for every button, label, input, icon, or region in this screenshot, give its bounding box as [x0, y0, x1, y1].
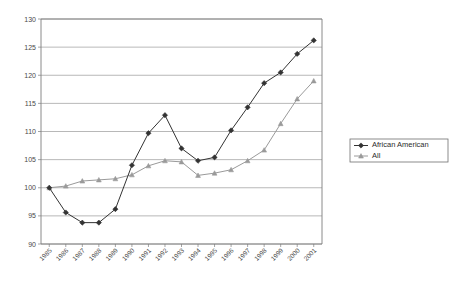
- legend-item-label: All: [372, 151, 381, 160]
- x-tick-label: 1992: [153, 246, 168, 261]
- data-point-marker: [229, 167, 234, 171]
- x-tick-label: 1995: [203, 246, 218, 261]
- x-tick-label: 1986: [54, 246, 69, 261]
- data-point-marker: [63, 210, 68, 215]
- data-point-marker: [130, 172, 135, 176]
- y-tick-label: 125: [24, 44, 36, 51]
- y-tick-label: 130: [24, 16, 36, 23]
- data-point-marker: [311, 78, 316, 82]
- y-tick-label: 110: [25, 128, 36, 135]
- y-tick-label: 115: [25, 100, 36, 107]
- chart-canvas: 9095100105110115120125130198519861987198…: [0, 0, 452, 283]
- x-tick-label: 1996: [220, 246, 235, 261]
- x-tick-label: 1999: [269, 246, 284, 261]
- x-tick-label: 1993: [170, 246, 185, 261]
- x-tick-label: 1998: [253, 246, 268, 261]
- data-point-marker: [245, 158, 250, 162]
- data-point-marker: [129, 163, 134, 168]
- x-tick-label: 1989: [104, 246, 119, 261]
- data-point-marker: [262, 148, 267, 152]
- x-tick-label: 1987: [71, 246, 86, 261]
- x-tick-label: 1990: [120, 246, 135, 261]
- y-tick-label: 90: [28, 241, 36, 248]
- x-tick-label: 1985: [38, 246, 53, 261]
- series-all: [47, 78, 316, 189]
- data-point-marker: [80, 220, 85, 225]
- y-tick-label: 105: [24, 156, 36, 163]
- chart-legend: African AmericanAll: [350, 139, 448, 162]
- legend-item-label: African American: [372, 140, 429, 149]
- x-tick-label: 1991: [137, 246, 152, 261]
- x-axis-ticks: 1985198619871988198919901991199219931994…: [38, 244, 318, 262]
- x-tick-label: 1988: [87, 246, 102, 261]
- y-tick-label: 95: [28, 212, 36, 219]
- series-line: [49, 81, 313, 188]
- x-tick-label: 2001: [302, 246, 317, 261]
- x-tick-label: 1997: [236, 246, 251, 261]
- y-tick-label: 120: [24, 72, 36, 79]
- data-point-marker: [212, 155, 217, 160]
- y-tick-label: 100: [24, 184, 36, 191]
- x-tick-label: 2000: [286, 246, 301, 261]
- line-chart: 9095100105110115120125130198519861987198…: [0, 0, 452, 283]
- x-tick-label: 1994: [187, 246, 202, 261]
